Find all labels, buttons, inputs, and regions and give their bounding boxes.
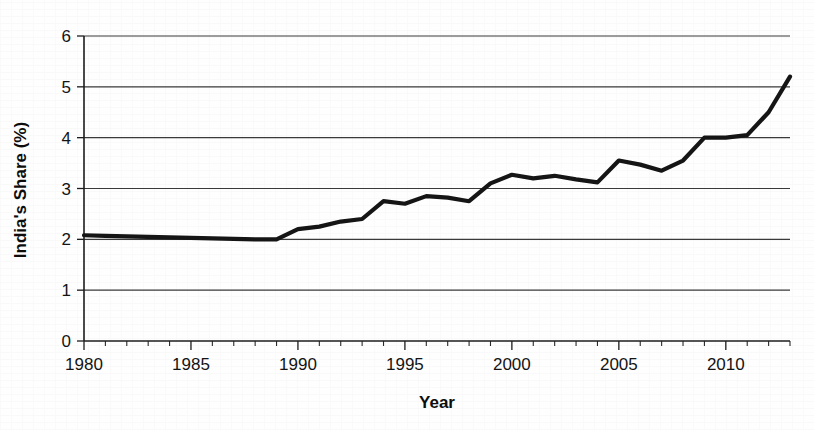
y-tick-label-5: 5: [62, 78, 71, 97]
y-tick-label-2: 2: [62, 230, 71, 249]
x-tick-label-group: 1980198519901995200020052010: [65, 355, 745, 374]
y-tick-label-6: 6: [62, 27, 71, 46]
y-tick-label-3: 3: [62, 180, 71, 199]
x-tick-label-2000: 2000: [493, 355, 531, 374]
x-tick-label-2005: 2005: [600, 355, 638, 374]
x-axis-title: Year: [419, 393, 455, 412]
y-tick-label-group: 0123456: [62, 27, 71, 351]
chart-figure: 0123456 1980198519901995200020052010 Ind…: [0, 0, 814, 430]
x-major-tick-group: [84, 341, 726, 350]
x-tick-label-1995: 1995: [386, 355, 424, 374]
y-axis-title: India's Share (%): [11, 122, 30, 258]
y-tick-label-1: 1: [62, 281, 71, 300]
line-chart-plot: 0123456 1980198519901995200020052010 Ind…: [0, 0, 814, 430]
x-tick-label-2010: 2010: [707, 355, 745, 374]
x-tick-label-1990: 1990: [279, 355, 317, 374]
data-series-line: [84, 77, 790, 240]
x-tick-label-1980: 1980: [65, 355, 103, 374]
y-tick-group: [77, 36, 84, 341]
y-tick-label-0: 0: [62, 332, 71, 351]
gridline-group: [84, 36, 790, 290]
x-tick-label-1985: 1985: [172, 355, 210, 374]
y-tick-label-4: 4: [62, 129, 71, 148]
